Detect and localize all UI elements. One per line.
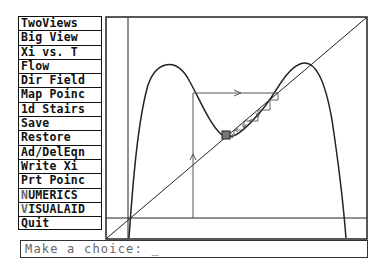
command-prompt[interactable]: Make a choice: _ — [20, 240, 368, 258]
fixed-point-marker — [222, 131, 230, 139]
diagonal-line — [107, 18, 366, 238]
map-curve — [129, 63, 346, 238]
text-cursor: _ — [151, 242, 159, 256]
stairs-plot[interactable] — [0, 0, 391, 270]
prompt-text: Make a choice: — [25, 242, 151, 256]
